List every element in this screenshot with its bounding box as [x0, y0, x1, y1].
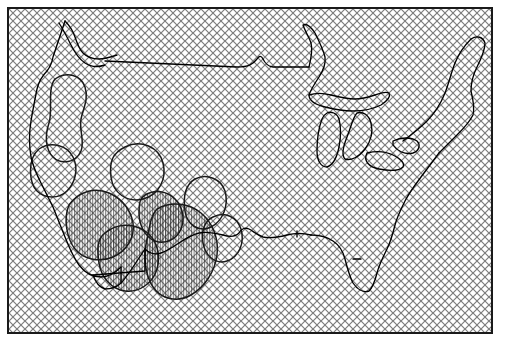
map-figure-page	[0, 0, 507, 347]
map-canvas	[9, 9, 491, 332]
background-crosshatch-fill	[9, 9, 491, 332]
map-frame	[7, 7, 493, 334]
